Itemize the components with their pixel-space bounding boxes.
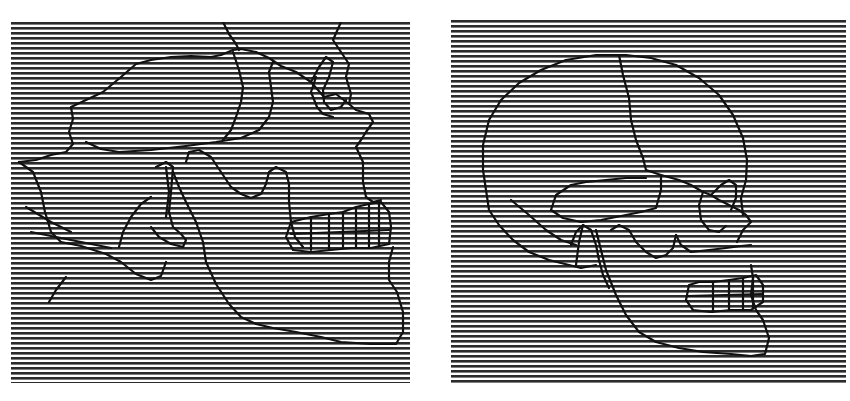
skull-illustration-right: [451, 20, 846, 384]
skull-illustration-left: [11, 22, 410, 383]
figure: [0, 0, 850, 401]
grating-panel-right: [451, 20, 846, 384]
grating-panel-left: [11, 22, 410, 383]
